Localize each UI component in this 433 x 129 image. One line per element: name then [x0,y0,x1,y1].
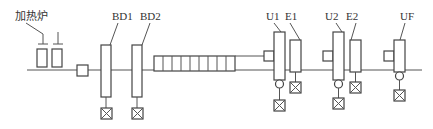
uf-label: UF [400,10,414,22]
motor-icon [290,82,301,93]
rolling-mill-diagram: 加热炉 BD1 BD2 [0,0,433,129]
e1-label: E1 [285,10,297,22]
motor-icon [101,108,112,119]
stand-u1: U1 [264,10,285,111]
roller-table [154,56,264,71]
descaler-box [77,65,88,76]
u2-label: U2 [325,10,338,22]
e2-label: E2 [346,10,358,22]
stand-u2: U2 [323,10,344,109]
stand-e2: E2 [346,10,361,93]
furnace-label: 加热炉 [15,10,48,22]
motor-icon [350,82,361,93]
stand-uf: UF [384,10,414,101]
motor-icon [274,100,285,111]
stand-bd1: BD1 [101,10,133,119]
motor-icon [394,90,405,101]
motor-icon [132,108,143,119]
u1-label: U1 [266,10,279,22]
furnace-box-2 [52,49,62,67]
furnace-box-1 [37,49,47,67]
heating-furnace [37,32,63,67]
bd2-label: BD2 [140,10,161,22]
furnace-leader [26,23,43,34]
motor-icon [333,98,344,109]
bd1-label: BD1 [112,10,133,22]
stand-e1: E1 [285,10,301,93]
